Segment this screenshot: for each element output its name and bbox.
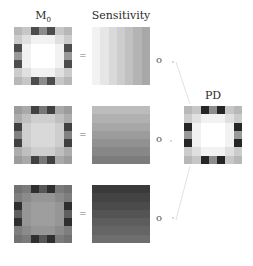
- pixel-cell: [31, 68, 39, 76]
- sensitivity-map-row-2: [92, 106, 150, 164]
- sensitivity-cell: [109, 147, 117, 155]
- pd-cell: [209, 106, 217, 114]
- pixel-cell: [22, 202, 30, 210]
- compose-operator-row-2: o: [156, 133, 162, 144]
- pixel-cell: [39, 218, 47, 226]
- sensitivity-cell: [133, 68, 141, 76]
- pixel-cell: [39, 27, 47, 35]
- sensitivity-cell: [117, 60, 125, 68]
- sensitivity-cell: [142, 210, 150, 218]
- pixel-cell: [55, 202, 63, 210]
- sensitivity-cell: [100, 106, 108, 114]
- sensitivity-cell: [117, 218, 125, 226]
- pd-cell: [192, 131, 200, 139]
- connector-dot-row-1: [172, 61, 174, 63]
- sensitivity-cell: [125, 156, 133, 164]
- sensitivity-cell: [133, 202, 141, 210]
- sensitivity-cell: [92, 147, 100, 155]
- pixel-cell: [31, 35, 39, 43]
- pixel-cell: [14, 185, 22, 193]
- sensitivity-cell: [133, 114, 141, 122]
- sensitivity-cell: [92, 77, 100, 85]
- pd-cell: [217, 123, 225, 131]
- pd-cell: [234, 147, 242, 155]
- pixel-cell: [31, 27, 39, 35]
- pixel-cell: [39, 35, 47, 43]
- sensitivity-cell: [109, 106, 117, 114]
- pixel-cell: [47, 114, 55, 122]
- pixel-cell: [22, 123, 30, 131]
- pixel-cell: [55, 35, 63, 43]
- m0-grid-row-1: [14, 27, 72, 85]
- pixel-cell: [39, 77, 47, 85]
- sensitivity-cell: [142, 106, 150, 114]
- pixel-cell: [22, 35, 30, 43]
- pixel-cell: [64, 123, 72, 131]
- pixel-cell: [31, 147, 39, 155]
- pd-cell: [201, 114, 209, 122]
- sensitivity-cell: [109, 60, 117, 68]
- pd-cell: [225, 156, 233, 164]
- pixel-cell: [55, 106, 63, 114]
- pixel-cell: [31, 235, 39, 243]
- pixel-cell: [64, 27, 72, 35]
- sensitivity-cell: [109, 68, 117, 76]
- sensitivity-cell: [125, 27, 133, 35]
- pixel-cell: [47, 52, 55, 60]
- pixel-cell: [14, 139, 22, 147]
- sensitivity-cell: [142, 193, 150, 201]
- sensitivity-cell: [109, 139, 117, 147]
- sensitivity-cell: [100, 68, 108, 76]
- pixel-cell: [22, 68, 30, 76]
- compose-operator-row-3: o: [156, 212, 162, 223]
- pixel-cell: [31, 156, 39, 164]
- pixel-cell: [14, 77, 22, 85]
- pixel-cell: [22, 106, 30, 114]
- pixel-cell: [55, 123, 63, 131]
- pixel-cell: [47, 193, 55, 201]
- pixel-cell: [55, 235, 63, 243]
- sensitivity-cell: [142, 218, 150, 226]
- sensitivity-cell: [142, 131, 150, 139]
- pixel-cell: [22, 77, 30, 85]
- sensitivity-cell: [92, 123, 100, 131]
- pixel-cell: [31, 60, 39, 68]
- pixel-cell: [39, 193, 47, 201]
- sensitivity-cell: [92, 27, 100, 35]
- sensitivity-cell: [133, 60, 141, 68]
- pixel-cell: [22, 193, 30, 201]
- sensitivity-cell: [92, 185, 100, 193]
- pixel-cell: [64, 193, 72, 201]
- sensitivity-cell: [117, 44, 125, 52]
- pixel-cell: [31, 131, 39, 139]
- pixel-cell: [55, 139, 63, 147]
- pixel-cell: [39, 185, 47, 193]
- sensitivity-cell: [92, 156, 100, 164]
- pixel-cell: [64, 156, 72, 164]
- pd-cell: [217, 147, 225, 155]
- sensitivity-cell: [125, 68, 133, 76]
- sensitivity-cell: [92, 44, 100, 52]
- sensitivity-cell: [125, 218, 133, 226]
- pixel-cell: [39, 44, 47, 52]
- sensitivity-cell: [133, 193, 141, 201]
- pd-grid: [184, 106, 242, 164]
- sensitivity-cell: [125, 35, 133, 43]
- m0-grid-row-2: [14, 106, 72, 164]
- pd-cell: [209, 147, 217, 155]
- sensitivity-cell: [142, 60, 150, 68]
- equals-sign-row-2: =: [79, 130, 87, 140]
- pixel-cell: [55, 218, 63, 226]
- sensitivity-cell: [133, 218, 141, 226]
- pd-cell: [217, 131, 225, 139]
- pixel-cell: [64, 218, 72, 226]
- pixel-cell: [64, 68, 72, 76]
- pixel-cell: [31, 114, 39, 122]
- sensitivity-cell: [109, 131, 117, 139]
- pixel-cell: [14, 60, 22, 68]
- pixel-cell: [47, 60, 55, 68]
- pixel-cell: [55, 44, 63, 52]
- pixel-cell: [31, 210, 39, 218]
- sensitivity-cell: [92, 60, 100, 68]
- sensitivity-cell: [100, 123, 108, 131]
